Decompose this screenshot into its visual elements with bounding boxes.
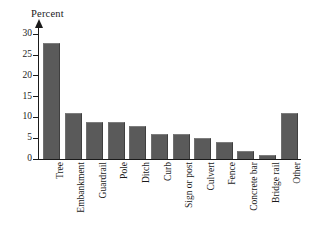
y-axis-tick-label: 15	[6, 92, 32, 102]
bar	[86, 122, 103, 159]
x-axis-tick-label-text: Embankment	[77, 162, 87, 213]
bar-chart: Percent 051015202530 TreeEmbankmentGuard…	[0, 0, 316, 237]
bar	[129, 126, 146, 159]
bar	[43, 43, 60, 159]
x-axis-tick-label: Guardrail	[99, 162, 109, 198]
x-axis-tick-label: Fence	[228, 162, 238, 185]
x-axis-tick-label: Sign or post	[185, 162, 195, 208]
x-axis-tick-label-text: Culvert	[207, 162, 217, 191]
bar	[108, 122, 125, 159]
y-axis-tick-label: 10	[6, 112, 32, 122]
x-axis-tick-label: Curb	[164, 162, 174, 181]
bar	[173, 134, 190, 159]
x-axis-tick-label-text: Curb	[164, 162, 174, 181]
x-axis-tick-label-text: Concrete bar	[250, 162, 260, 211]
bar	[259, 155, 276, 159]
y-axis-tick-label: 20	[6, 71, 32, 81]
x-axis-tick-label: Other	[293, 162, 303, 184]
x-axis-tick-label-text: Tree	[56, 162, 66, 179]
bar	[194, 138, 211, 159]
x-axis-tick-label: Concrete bar	[250, 162, 260, 211]
y-axis-tick-label: 25	[6, 50, 32, 60]
x-axis-tick-label-text: Guardrail	[99, 162, 109, 198]
bar	[281, 113, 298, 159]
x-axis-tick-label-text: Ditch	[142, 162, 152, 183]
x-axis-tick-label-text: Bridge rail	[272, 162, 282, 203]
bar	[151, 134, 168, 159]
y-axis-tick-label: 0	[6, 154, 32, 164]
x-axis-tick-label-text: Fence	[228, 162, 238, 185]
x-axis-tick-label: Pole	[120, 162, 130, 179]
plot-area	[39, 26, 301, 159]
y-axis-title: Percent	[31, 8, 64, 19]
y-axis-tick-labels: 051015202530	[2, 0, 32, 237]
x-axis-tick-label: Culvert	[207, 162, 217, 191]
bar	[237, 151, 254, 159]
y-axis-tick-label: 5	[6, 133, 32, 143]
x-axis-tick-label-text: Other	[293, 162, 303, 184]
x-axis-tick-label: Ditch	[142, 162, 152, 183]
x-axis-tick-label: Tree	[56, 162, 66, 179]
bar	[65, 113, 82, 159]
x-axis-tick-label-text: Sign or post	[185, 162, 195, 208]
x-axis-tick-label: Embankment	[77, 162, 87, 213]
x-axis-tick-label: Bridge rail	[272, 162, 282, 203]
x-axis-tick-labels: TreeEmbankmentGuardrailPoleDitchCurbSign…	[39, 162, 301, 237]
bar	[216, 142, 233, 159]
x-axis-tick-label-text: Pole	[120, 162, 130, 179]
y-axis-tick-label: 30	[6, 29, 32, 39]
